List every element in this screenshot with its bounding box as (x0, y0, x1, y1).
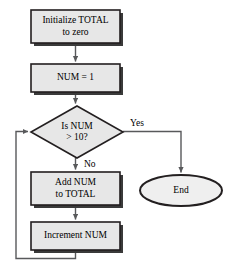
terminator-end-shape[interactable] (140, 175, 222, 206)
decision-isnum-shape[interactable] (31, 106, 123, 158)
flowchart-diagram: Initialize TOTAL to zero NUM = 1 Is NUM … (0, 0, 236, 273)
process-add-shape[interactable] (31, 172, 120, 205)
edge-label-yes: Yes (130, 118, 144, 128)
edge-label-no: No (84, 159, 96, 169)
process-setnum-shape[interactable] (31, 64, 120, 92)
flowchart-canvas-svg (0, 0, 236, 273)
connector-decision-yes-to-end (123, 132, 181, 173)
process-increment-shape[interactable] (31, 222, 120, 250)
process-init-shape[interactable] (31, 10, 120, 43)
